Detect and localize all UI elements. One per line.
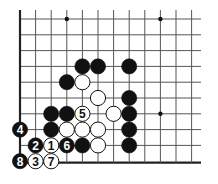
black-stone [122, 122, 137, 137]
white-stone [106, 106, 121, 121]
black-stone-icon [122, 122, 137, 137]
white-stone-icon [90, 122, 105, 137]
black-stone [75, 59, 90, 74]
white-stone-icon [90, 138, 105, 153]
move-number-label: 2 [32, 139, 39, 153]
star-point-icon [65, 17, 69, 21]
white-stone-icon [75, 75, 90, 90]
black-stone [122, 106, 137, 121]
move-number-label: 6 [63, 139, 70, 153]
move-number-label: 5 [79, 107, 86, 121]
white-stone-icon [106, 106, 121, 121]
move-number-label: 8 [17, 155, 24, 169]
black-stone-icon [44, 122, 59, 137]
white-stone-move-3: 3 [28, 154, 43, 169]
black-stone [122, 59, 137, 74]
black-stone-icon [122, 106, 137, 121]
white-stone [90, 138, 105, 153]
move-number-label: 7 [48, 155, 55, 169]
black-stone [59, 106, 74, 121]
black-stone [75, 138, 90, 153]
move-number-label: 3 [32, 155, 39, 169]
black-stone-icon [122, 138, 137, 153]
move-number-label: 4 [17, 123, 24, 137]
black-stone-icon [59, 106, 74, 121]
black-stone-icon [59, 75, 74, 90]
black-stone-move-8: 8 [12, 154, 27, 169]
black-stone-icon [122, 59, 137, 74]
black-stone-icon [90, 59, 105, 74]
white-stone [90, 122, 105, 137]
white-stone-icon [75, 122, 90, 137]
white-stone [75, 75, 90, 90]
black-stone-icon [44, 106, 59, 121]
black-stone-move-2: 2 [28, 138, 43, 153]
black-stone-move-6: 6 [59, 138, 74, 153]
star-point-icon [158, 17, 162, 21]
white-stone-move-5: 5 [75, 106, 90, 121]
black-stone-move-4: 4 [12, 122, 27, 137]
white-stone [59, 122, 74, 137]
black-stone [59, 75, 74, 90]
white-stone [75, 122, 90, 137]
white-stone-move-1: 1 [44, 138, 59, 153]
black-stone-icon [122, 90, 137, 105]
black-stone [44, 122, 59, 137]
black-stone [90, 59, 105, 74]
white-stone-icon [90, 90, 105, 105]
move-number-label: 1 [48, 139, 55, 153]
black-stone [122, 138, 137, 153]
go-board-diagram: 54216837 [0, 0, 218, 184]
black-stone [44, 106, 59, 121]
white-stone-icon [59, 122, 74, 137]
white-stone [90, 90, 105, 105]
black-stone [122, 90, 137, 105]
black-stone-icon [75, 138, 90, 153]
white-stone-move-7: 7 [44, 154, 59, 169]
black-stone-icon [75, 59, 90, 74]
star-point-icon [158, 112, 162, 116]
